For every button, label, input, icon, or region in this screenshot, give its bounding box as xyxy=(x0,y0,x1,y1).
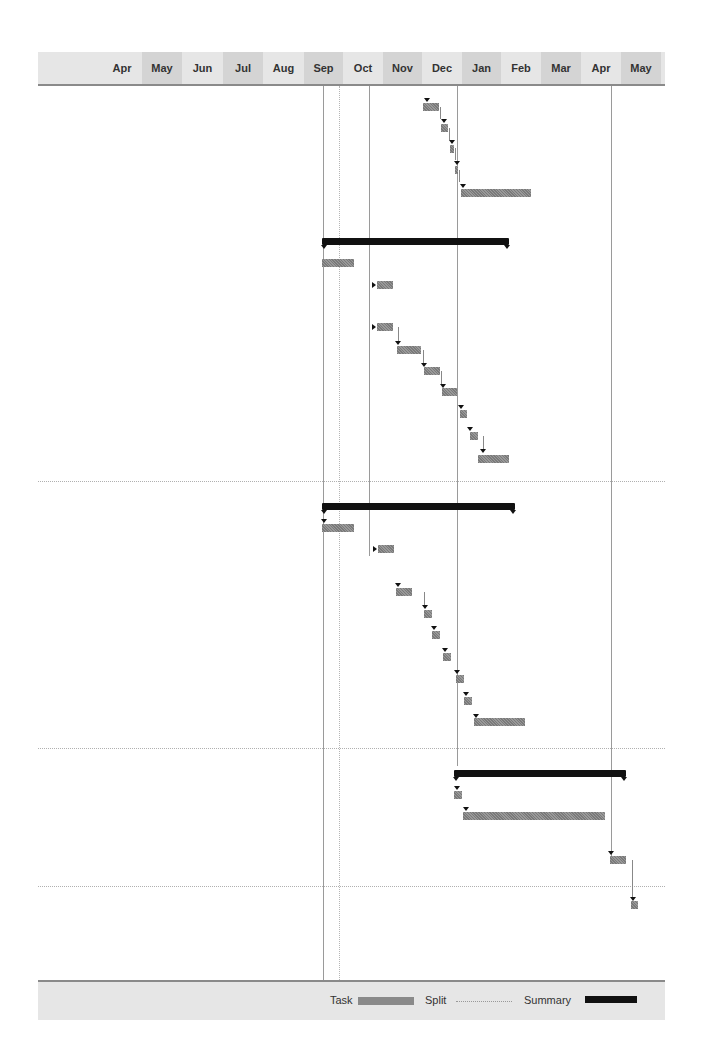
link-arrow-icon xyxy=(463,692,469,696)
task-bar[interactable] xyxy=(461,189,531,197)
month-mar: Mar xyxy=(541,52,581,84)
group-separator xyxy=(38,886,665,887)
legend-summary-label: Summary xyxy=(524,994,571,1006)
link-arrow-icon xyxy=(454,161,460,165)
task-bar[interactable] xyxy=(377,323,393,331)
link-arrow-icon xyxy=(372,324,376,330)
month-aug: Aug xyxy=(263,52,304,84)
task-bar[interactable] xyxy=(443,653,451,661)
link-arrow-icon xyxy=(449,140,455,144)
task-bar[interactable] xyxy=(478,455,509,463)
month-jul: Jul xyxy=(223,52,263,84)
task-bar[interactable] xyxy=(450,145,454,153)
project-start-line xyxy=(323,86,324,980)
task-bar[interactable] xyxy=(424,610,432,618)
deadline-line-oct xyxy=(369,86,370,556)
link-arrow-icon xyxy=(424,98,430,102)
month-oct: Oct xyxy=(343,52,383,84)
task-bar[interactable] xyxy=(470,432,478,440)
month-nov: Nov xyxy=(383,52,422,84)
link-arrow-icon xyxy=(373,546,377,552)
dependency-link xyxy=(441,371,442,384)
month-may: May xyxy=(142,52,182,84)
link-arrow-icon xyxy=(454,670,460,674)
task-bar[interactable] xyxy=(464,697,472,705)
task-bar[interactable] xyxy=(454,791,462,799)
month-apr: Apr xyxy=(102,52,142,84)
group-separator xyxy=(38,748,665,749)
link-arrow-icon xyxy=(441,119,447,123)
dependency-link xyxy=(423,350,424,363)
task-bar[interactable] xyxy=(631,901,638,909)
dependency-link xyxy=(398,327,399,341)
link-arrow-icon xyxy=(372,282,376,288)
month-apr-2: Apr xyxy=(581,52,621,84)
task-bar[interactable] xyxy=(463,812,605,820)
link-arrow-icon xyxy=(460,184,466,188)
link-arrow-icon xyxy=(395,583,401,587)
task-bar[interactable] xyxy=(396,588,412,596)
task-bar[interactable] xyxy=(377,281,393,289)
summary-bar[interactable] xyxy=(454,770,626,777)
task-bar[interactable] xyxy=(432,631,440,639)
link-arrow-icon xyxy=(395,341,401,345)
task-bar[interactable] xyxy=(474,718,525,726)
link-arrow-icon xyxy=(422,605,428,609)
link-arrow-icon xyxy=(480,449,486,453)
task-bar[interactable] xyxy=(423,103,439,111)
dependency-link xyxy=(459,170,460,182)
task-bar[interactable] xyxy=(424,367,440,375)
dependency-link xyxy=(455,148,456,160)
month-sep: Sep xyxy=(304,52,343,84)
month-feb: Feb xyxy=(501,52,541,84)
task-bar[interactable] xyxy=(322,524,354,532)
link-arrow-icon xyxy=(454,786,460,790)
dependency-link xyxy=(424,592,425,605)
legend-summary-swatch xyxy=(585,996,637,1003)
task-bar[interactable] xyxy=(610,856,626,864)
month-jan: Jan xyxy=(462,52,501,84)
task-bar[interactable] xyxy=(456,675,464,683)
task-bar[interactable] xyxy=(460,410,467,418)
group-separator xyxy=(38,481,665,482)
link-arrow-icon xyxy=(463,807,469,811)
month-may-2: May xyxy=(621,52,661,84)
month-jun: Jun xyxy=(182,52,223,84)
dependency-link xyxy=(483,436,484,449)
dependency-link xyxy=(449,128,450,140)
link-arrow-icon xyxy=(442,648,448,652)
task-bar[interactable] xyxy=(397,346,421,354)
legend-task-swatch xyxy=(358,997,414,1005)
legend-bar: Task Split Summary xyxy=(38,980,665,1020)
task-bar[interactable] xyxy=(322,259,354,267)
task-bar[interactable] xyxy=(442,388,457,396)
task-bar[interactable] xyxy=(378,545,394,553)
dependency-link xyxy=(440,107,441,119)
link-arrow-icon xyxy=(458,405,464,409)
legend-split-swatch xyxy=(456,1001,512,1002)
today-line xyxy=(339,86,340,980)
deadline-line-dec xyxy=(457,86,458,766)
task-bar[interactable] xyxy=(441,124,448,132)
summary-bar[interactable] xyxy=(322,238,509,245)
link-arrow-icon xyxy=(321,519,327,523)
legend-split-label: Split xyxy=(425,994,446,1006)
timescale-header: Apr May Jun Jul Aug Sep Oct Nov Dec Jan … xyxy=(38,52,665,86)
summary-bar[interactable] xyxy=(322,503,515,510)
legend-task-label: Task xyxy=(330,994,353,1006)
month-dec: Dec xyxy=(422,52,462,84)
link-arrow-icon xyxy=(467,427,473,431)
link-arrow-icon xyxy=(431,626,437,630)
deadline-line-apr xyxy=(611,86,612,856)
task-bar[interactable] xyxy=(455,166,458,174)
dependency-link xyxy=(632,860,633,897)
link-arrow-icon xyxy=(608,851,614,855)
